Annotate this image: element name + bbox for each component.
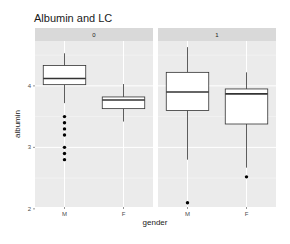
y-axis: 234	[28, 83, 35, 212]
outlier-point	[63, 115, 66, 118]
x-tick-label: F	[245, 211, 249, 217]
outlier-point	[63, 133, 66, 136]
outlier-point	[245, 175, 248, 178]
chart-title: Albumin and LC	[34, 12, 112, 24]
outlier-point	[63, 158, 66, 161]
x-tick-label: M	[185, 211, 190, 217]
y-axis-title: albumin	[13, 110, 22, 138]
x-axis-title: gender	[143, 218, 168, 227]
y-tick-label: 4	[28, 83, 32, 89]
outlier-point	[63, 127, 66, 130]
y-tick-label: 3	[28, 144, 32, 150]
outlier-point	[63, 121, 66, 124]
y-tick-label: 2	[28, 206, 32, 212]
x-tick-label: M	[62, 211, 67, 217]
iqr-box	[43, 66, 85, 85]
boxplot-chart: Albumin and LC 0MF1MF 234 gender albumin	[0, 0, 290, 244]
facet-panel-1: 1MF	[158, 28, 276, 217]
iqr-box	[102, 97, 144, 109]
outlier-point	[63, 146, 66, 149]
facet-panel-0: 0MF	[35, 28, 153, 217]
outlier-point	[186, 201, 189, 204]
facet-panels: 0MF1MF	[35, 28, 276, 217]
x-tick-label: F	[122, 211, 126, 217]
outlier-point	[63, 152, 66, 155]
